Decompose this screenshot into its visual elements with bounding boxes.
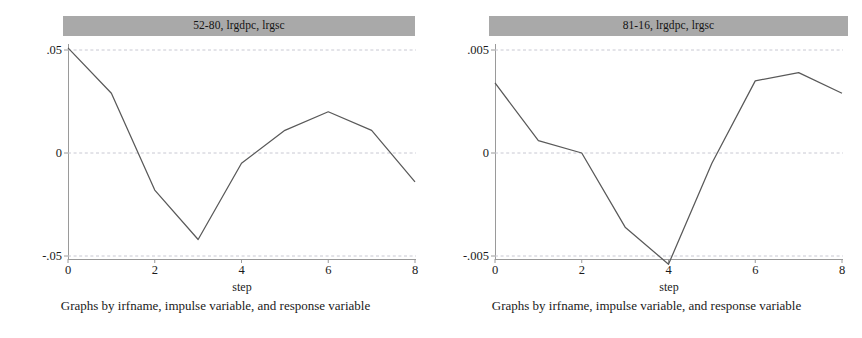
x-tick-label: 6 (752, 264, 758, 277)
panel-right-x-axis-title: step (495, 280, 843, 295)
panel-left-caption: Graphs by irfname, impulse variable, and… (0, 298, 431, 314)
panel-left-x-axis-title: step (68, 280, 416, 295)
x-tick-label: 4 (238, 264, 244, 277)
panel-right: 81-16, lrgdpc, lrgsc .005 0 -.005 0 2 4 … (431, 0, 862, 338)
x-tick-label: 0 (492, 264, 498, 277)
x-tick-label: 8 (839, 264, 845, 277)
x-tick-label: 2 (152, 264, 158, 277)
irf-line-series (495, 73, 842, 265)
x-tick-label: 2 (579, 264, 585, 277)
panel-right-caption: Graphs by irfname, impulse variable, and… (431, 298, 862, 314)
x-tick-label: 0 (65, 264, 71, 277)
irf-figure: 52-80, lrgdpc, lrgsc .05 0 -.05 0 2 4 6 … (0, 0, 862, 338)
x-tick-label: 8 (412, 264, 418, 277)
x-tick-label: 6 (325, 264, 331, 277)
irf-line-series (68, 48, 415, 240)
panel-left: 52-80, lrgdpc, lrgsc .05 0 -.05 0 2 4 6 … (0, 0, 431, 338)
x-tick-label: 4 (665, 264, 671, 277)
